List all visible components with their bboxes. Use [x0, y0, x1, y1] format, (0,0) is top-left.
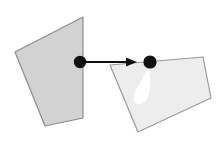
right-dot-marker	[143, 55, 156, 68]
figure-canvas	[0, 0, 222, 144]
left-dot-marker	[74, 56, 86, 68]
figure-root: Two quadrilateral planes linked by a tra…	[0, 0, 222, 144]
